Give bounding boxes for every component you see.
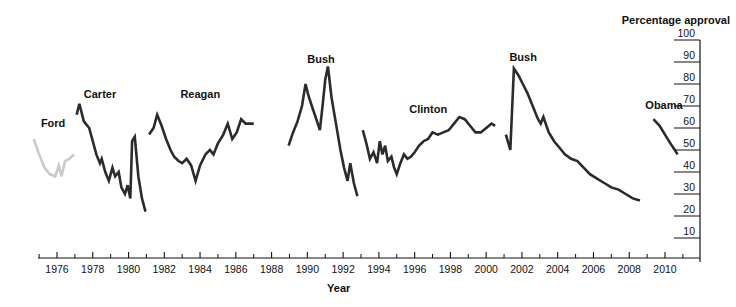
y-tick-label: 20 — [670, 203, 695, 215]
series-label-bush: Bush — [509, 51, 537, 63]
y-tick-label: 80 — [670, 71, 695, 83]
y-axis-title: Percentage approval — [622, 14, 730, 26]
series-label-reagan: Reagan — [180, 88, 220, 100]
chart-plot-area — [0, 0, 736, 307]
series-line-ford-0 — [34, 139, 74, 176]
y-tick-label: 10 — [670, 225, 695, 237]
series-label-bush: Bush — [307, 53, 335, 65]
y-tick-label: 40 — [670, 159, 695, 171]
x-tick-label: 1986 — [216, 263, 256, 275]
x-tick-label: 1978 — [73, 263, 113, 275]
series-line-reagan-2 — [149, 115, 254, 181]
x-tick-label: 1976 — [37, 263, 77, 275]
x-tick-label: 1996 — [395, 263, 435, 275]
series-line-bush-3 — [289, 66, 358, 196]
x-tick-label: 1994 — [359, 263, 399, 275]
x-tick-label: 1998 — [430, 263, 470, 275]
x-tick-label: 1992 — [323, 263, 363, 275]
y-tick-label: 50 — [670, 137, 695, 149]
series-label-carter: Carter — [84, 88, 116, 100]
x-tick-label: 1980 — [109, 263, 149, 275]
y-tick-label: 60 — [670, 115, 695, 127]
x-tick-label: 2006 — [573, 263, 613, 275]
x-tick-label: 2002 — [502, 263, 542, 275]
x-tick-label: 2010 — [645, 263, 685, 275]
x-tick-label: 1988 — [252, 263, 292, 275]
x-tick-label: 1982 — [144, 263, 184, 275]
x-tick-label: 2004 — [538, 263, 578, 275]
series-line-bush-5 — [506, 69, 640, 201]
x-tick-label: 2000 — [466, 263, 506, 275]
approval-rating-chart: Percentage approval Year 197619781980198… — [0, 0, 736, 307]
x-axis-title: Year — [327, 282, 350, 294]
series-line-carter-1 — [77, 104, 146, 212]
x-tick-label: 2008 — [609, 263, 649, 275]
y-tick-label: 100 — [670, 27, 695, 39]
x-tick-label: 1984 — [180, 263, 220, 275]
y-tick-label: 30 — [670, 181, 695, 193]
series-label-ford: Ford — [41, 117, 65, 129]
y-tick-label: 90 — [670, 49, 695, 61]
series-label-obama: Obama — [645, 99, 682, 111]
series-line-clinton-4 — [363, 117, 495, 174]
series-label-clinton: Clinton — [409, 103, 447, 115]
x-tick-label: 1990 — [287, 263, 327, 275]
